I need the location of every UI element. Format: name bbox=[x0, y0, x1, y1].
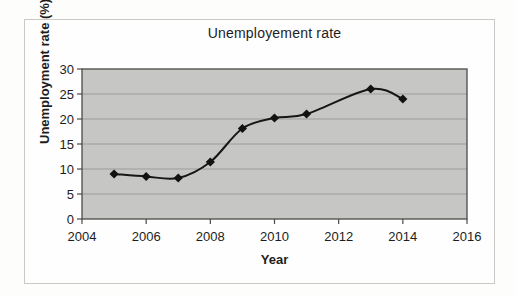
y-tick-label: 5 bbox=[67, 187, 74, 202]
y-tick-label: 25 bbox=[60, 87, 74, 102]
x-tick-label: 2006 bbox=[132, 229, 161, 244]
y-tick-label: 10 bbox=[60, 162, 74, 177]
y-tick-label: 30 bbox=[60, 62, 74, 77]
y-tick-label: 20 bbox=[60, 112, 74, 127]
y-tick-label: 15 bbox=[60, 137, 74, 152]
x-tick-label: 2012 bbox=[324, 229, 353, 244]
x-tick-label: 2008 bbox=[196, 229, 225, 244]
y-tick-label: 0 bbox=[67, 212, 74, 227]
x-tick-label: 2016 bbox=[453, 229, 482, 244]
x-tick-label: 2014 bbox=[388, 229, 417, 244]
plot-area: 0510152025302004200620082010201220142016 bbox=[0, 0, 516, 296]
x-tick-label: 2004 bbox=[68, 229, 97, 244]
x-tick-label: 2010 bbox=[260, 229, 289, 244]
